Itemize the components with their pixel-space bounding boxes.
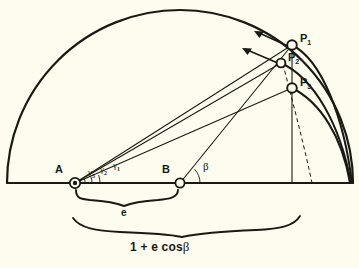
beta-glyph: β [183, 239, 190, 254]
point-marker-P2[interactable] [277, 59, 286, 68]
velocity-arrow-1 [254, 31, 290, 47]
angle-arc-gamma1 [99, 175, 100, 183]
ray-A-P3 [75, 88, 292, 183]
ray-B-P1 [180, 45, 292, 183]
angle-label-gamma1: γ1 [113, 161, 120, 170]
point-marker-P1[interactable] [287, 40, 297, 50]
ray-A-P1 [75, 45, 292, 183]
angle-label-gamma3-subscript: 3 [92, 173, 95, 179]
point-marker-B[interactable] [175, 178, 184, 187]
brace-e [76, 190, 178, 206]
angle-label-beta: β [203, 161, 209, 172]
angle-label-gamma2-subscript: 2 [104, 170, 107, 176]
point-marker-P3[interactable] [287, 83, 297, 93]
brace-focal-chord [73, 216, 300, 237]
point-marker-A[interactable] [70, 178, 80, 188]
angle-arc-beta [195, 169, 201, 183]
brace-label-focal-chord: 1 + e cosβ [130, 240, 190, 253]
point-label-P1-subscript: 1 [307, 39, 311, 46]
angle-label-gamma1-subscript: 1 [117, 166, 120, 172]
point-label-A: A [55, 164, 63, 175]
point-label-B: B [162, 164, 170, 175]
angle-label-gamma2: γ2 [100, 165, 107, 174]
point-label-P2: P2 [288, 52, 299, 63]
figure-root: A B P1 P2 P3 γ1 γ2 γ3 β e 1 + e cosβ [0, 0, 359, 268]
point-label-P3-subscript: 3 [307, 83, 311, 90]
point-label-P2-subscript: 2 [295, 58, 299, 65]
angle-label-gamma3: γ3 [88, 168, 95, 177]
point-label-P1: P1 [300, 33, 311, 44]
point-label-P3: P3 [300, 77, 311, 88]
brace-label-e: e [121, 208, 127, 218]
